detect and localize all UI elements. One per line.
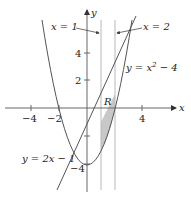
y-tick-label: −4 (70, 163, 85, 174)
region-label: R (103, 96, 112, 107)
x-axis-label: x (179, 102, 185, 113)
y-tick-label: 2 (75, 75, 81, 86)
x-tick-label: −2 (47, 113, 62, 124)
graph-canvas: −4 −2 4 4 2 −4 x y R x = 1 x = 2 y = x2 … (0, 0, 191, 197)
y-axis-label: y (90, 7, 97, 18)
y-tick-label: 4 (75, 48, 81, 59)
label-x-equals-2: x = 2 (143, 21, 170, 32)
label-line: y = 2x − 1 (21, 153, 76, 164)
x-tick-label: 4 (139, 113, 145, 124)
leader-arrow-x2 (117, 28, 142, 33)
label-x-equals-1: x = 1 (51, 21, 78, 32)
x-tick-label: −4 (22, 113, 37, 124)
label-parabola: y = x2 − 4 (125, 61, 178, 73)
